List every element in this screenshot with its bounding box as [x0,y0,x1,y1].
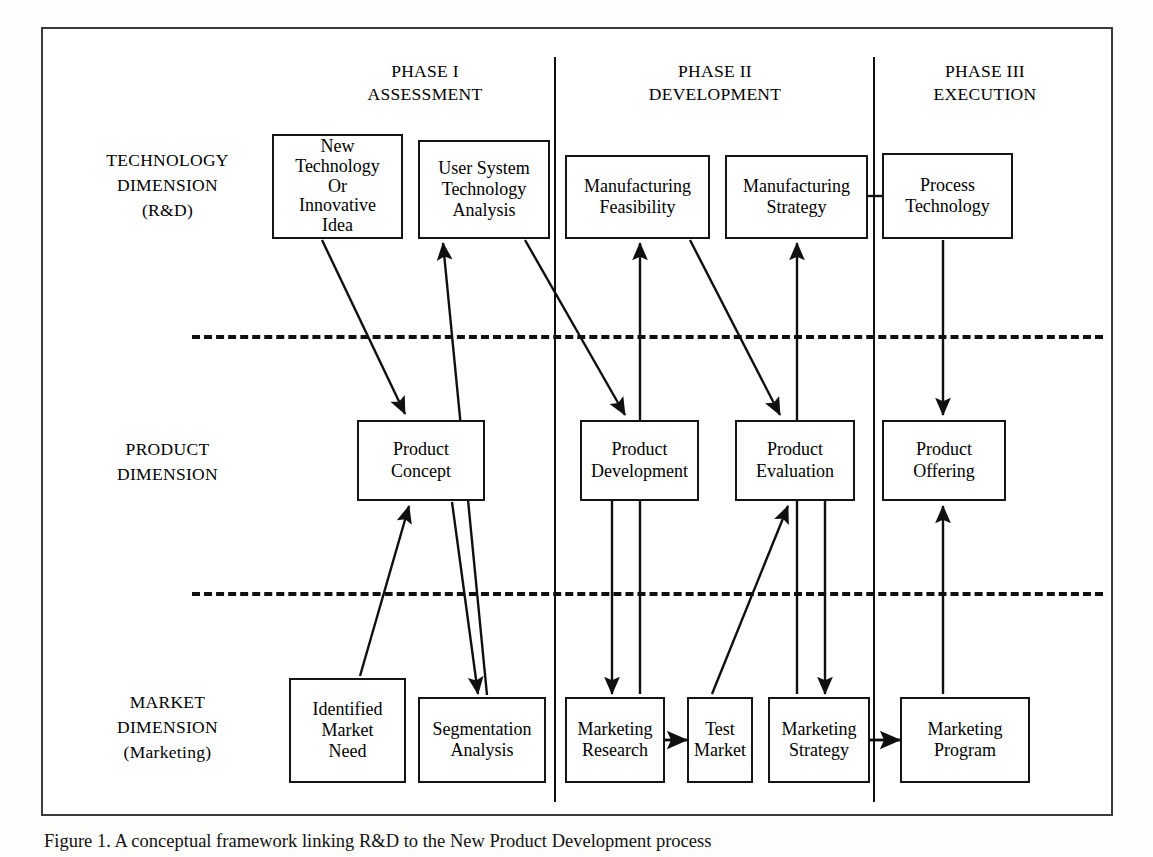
node-manufacturing-strategy[interactable]: Manufacturing Strategy [725,155,868,239]
node-new-technology-or-innovative-idea[interactable]: New Technology Or Innovative Idea [272,134,403,239]
node-manufacturing-feasibility[interactable]: Manufacturing Feasibility [565,155,710,239]
figure-canvas: PHASE I ASSESSMENT PHASE II DEVELOPMENT … [0,0,1153,857]
dimension-label-technology: TECHNOLOGY DIMENSION (R&D) [60,148,275,223]
dimension-separator-technology-product [192,335,1103,339]
node-marketing-program[interactable]: Marketing Program [900,697,1030,783]
phase-header-3: PHASE III EXECUTION [885,60,1085,106]
node-product-concept[interactable]: Product Concept [357,420,485,501]
node-user-system-technology-analysis[interactable]: User System Technology Analysis [418,140,550,239]
phase-header-2: PHASE II DEVELOPMENT [590,60,840,106]
node-product-offering[interactable]: Product Offering [882,420,1006,501]
node-test-market[interactable]: Test Market [687,697,753,783]
node-marketing-strategy[interactable]: Marketing Strategy [768,697,870,783]
phase-header-1: PHASE I ASSESSMENT [300,60,550,106]
node-product-development[interactable]: Product Development [580,420,699,501]
dimension-separator-product-market [192,592,1103,596]
dimension-label-product: PRODUCT DIMENSION [60,437,275,487]
dimension-label-market: MARKET DIMENSION (Marketing) [60,690,275,765]
figure-caption: Figure 1. A conceptual framework linking… [44,829,1104,853]
node-segmentation-analysis[interactable]: Segmentation Analysis [418,697,546,783]
node-marketing-research[interactable]: Marketing Research [565,697,665,783]
phase-divider-2 [873,57,875,802]
node-process-technology[interactable]: Process Technology [882,153,1013,239]
node-identified-market-need[interactable]: Identified Market Need [289,678,406,783]
node-product-evaluation[interactable]: Product Evaluation [735,420,855,501]
phase-divider-1 [554,57,556,802]
